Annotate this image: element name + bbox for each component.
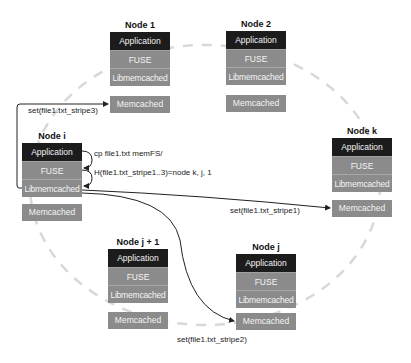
label-hash: H(file1.txt_stripe1..3)=node k, j, 1 bbox=[94, 168, 212, 177]
node-i-stack: Application FUSE Libmemcached bbox=[22, 143, 82, 197]
node-k-memcached: Memcached bbox=[332, 200, 392, 217]
application-layer: Application bbox=[110, 32, 170, 50]
label-cp-command: cp file1.txt memFS/ bbox=[94, 149, 162, 158]
fuse-layer: FUSE bbox=[108, 267, 168, 285]
node-1-stack: Application FUSE Libmemcached bbox=[110, 32, 170, 86]
libmemcached-layer: Libmemcached bbox=[22, 179, 82, 197]
libmemcached-layer: Libmemcached bbox=[236, 290, 296, 308]
node-2-memcached: Memcached bbox=[226, 95, 286, 112]
node-j-title: Node j bbox=[236, 242, 296, 252]
arrow-hash-loop bbox=[82, 170, 92, 186]
label-set-stripe3: set(file1.txt_stripe3) bbox=[28, 106, 98, 115]
label-set-stripe2: set(file1.txt_stripe2) bbox=[177, 335, 247, 344]
fuse-layer: FUSE bbox=[332, 156, 392, 174]
libmemcached-layer: Libmemcached bbox=[332, 174, 392, 192]
node-k-stack: Application FUSE Libmemcached bbox=[332, 138, 392, 192]
node-1-memcached: Memcached bbox=[110, 96, 170, 113]
node-2-stack: Application FUSE Libmemcached bbox=[226, 31, 286, 85]
node-i-title: Node i bbox=[22, 131, 82, 141]
libmemcached-layer: Libmemcached bbox=[226, 67, 286, 85]
application-layer: Application bbox=[236, 254, 296, 272]
node-k-title: Node k bbox=[332, 126, 392, 136]
fuse-layer: FUSE bbox=[236, 272, 296, 290]
node-j1-title: Node j + 1 bbox=[108, 237, 168, 247]
label-set-stripe1: set(file1.txt_stripe1) bbox=[230, 206, 300, 215]
node-1-title: Node 1 bbox=[110, 20, 170, 30]
fuse-layer: FUSE bbox=[110, 50, 170, 68]
node-i-memcached: Memcached bbox=[22, 204, 82, 221]
arrow-cp-loop bbox=[82, 151, 92, 168]
application-layer: Application bbox=[226, 31, 286, 49]
application-layer: Application bbox=[332, 138, 392, 156]
fuse-layer: FUSE bbox=[226, 49, 286, 67]
node-2-title: Node 2 bbox=[226, 19, 286, 29]
node-j-memcached: Memcached bbox=[236, 313, 296, 330]
ring-dashed bbox=[30, 45, 380, 325]
libmemcached-layer: Libmemcached bbox=[108, 285, 168, 303]
node-j1-memcached: Memcached bbox=[108, 312, 168, 329]
libmemcached-layer: Libmemcached bbox=[110, 68, 170, 86]
application-layer: Application bbox=[22, 143, 82, 161]
node-j1-stack: Application FUSE Libmemcached bbox=[108, 249, 168, 303]
node-j-stack: Application FUSE Libmemcached bbox=[236, 254, 296, 308]
application-layer: Application bbox=[108, 249, 168, 267]
fuse-layer: FUSE bbox=[22, 161, 82, 179]
